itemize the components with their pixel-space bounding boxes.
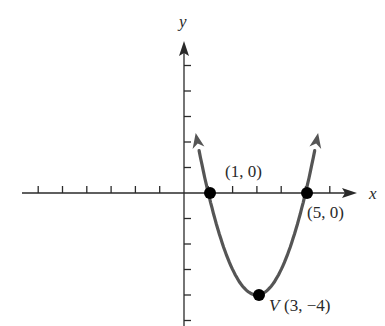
curve-left-arrow-icon xyxy=(193,133,205,149)
x-intercept-left-label: (1, 0) xyxy=(225,162,262,181)
x-axis-label: x xyxy=(368,184,377,203)
x-axis: x xyxy=(22,184,377,203)
x-intercept-left-point xyxy=(204,187,216,199)
x-intercept-right-point xyxy=(301,187,313,199)
parabola-graph: x y (1, 0) (5, 0) V (3, −4) xyxy=(0,0,385,326)
y-axis-label: y xyxy=(177,12,187,31)
x-intercept-right-label: (5, 0) xyxy=(307,203,344,222)
vertex-prefix-label: V xyxy=(269,296,282,315)
vertex-point xyxy=(253,289,265,301)
y-axis: y xyxy=(177,12,191,326)
curve-right-arrow-icon xyxy=(309,133,321,149)
vertex-label: (3, −4) xyxy=(284,296,330,315)
